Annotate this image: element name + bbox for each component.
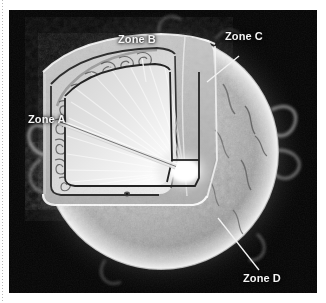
- zone-c-label: Zone C: [225, 30, 263, 43]
- sunspot-lower: [124, 192, 130, 197]
- star-cutaway-figure: Zone A Zone B Zone C Zone D: [9, 10, 317, 293]
- zone-a-label: Zone A: [28, 113, 65, 126]
- star-cutaway-illustration: [9, 10, 317, 293]
- page-margin-rule: [2, 0, 3, 303]
- page-canvas: Zone A Zone B Zone C Zone D: [0, 0, 326, 303]
- zone-d-label: Zone D: [243, 272, 281, 285]
- zone-b-label: Zone B: [118, 33, 156, 46]
